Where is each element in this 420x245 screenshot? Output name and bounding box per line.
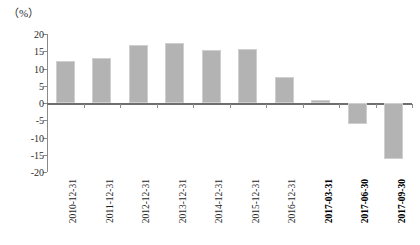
bar: [202, 50, 221, 103]
x-axis-tick: [266, 104, 267, 108]
x-axis-tick-label: 2013-12-31: [179, 179, 189, 223]
x-axis-tick: [303, 104, 304, 108]
bar: [384, 103, 403, 159]
x-axis-tick-label: 2012-12-31: [142, 179, 152, 223]
bar: [348, 103, 367, 124]
x-axis-tick-label: 2017-09-30: [398, 179, 408, 223]
x-axis-tick: [230, 104, 231, 108]
bar: [92, 58, 111, 103]
x-axis-tick-label: 2011-12-31: [106, 179, 116, 223]
x-axis-tick-label: 2017-06-30: [361, 179, 371, 223]
y-axis-tick-label: 15: [10, 46, 44, 57]
x-axis-tick: [84, 104, 85, 108]
bar: [311, 100, 330, 103]
x-axis-tick-label: 2016-12-31: [288, 179, 298, 223]
x-axis-tick: [412, 104, 413, 108]
x-axis-tick-label: 2010-12-31: [69, 179, 79, 223]
y-axis-tick-label: 0: [10, 98, 44, 109]
bar-chart: （%） 20151050-5-10-15-20 2010-12-312011-1…: [0, 0, 420, 245]
x-axis-tick-label: 2015-12-31: [252, 179, 262, 223]
plot-area: [47, 34, 412, 172]
bar: [238, 49, 257, 103]
y-axis-tick-label: 20: [10, 29, 44, 40]
y-axis-tick-label: -15: [10, 149, 44, 160]
x-axis-tick: [193, 104, 194, 108]
x-axis-tick-label: 2014-12-31: [215, 179, 225, 223]
x-axis-tick: [157, 104, 158, 108]
y-axis-tick-label: -5: [10, 115, 44, 126]
y-axis-tick-label: 5: [10, 80, 44, 91]
bar: [56, 61, 75, 103]
y-axis-tick-label: -20: [10, 167, 44, 178]
y-axis-tick-label: -10: [10, 132, 44, 143]
bar: [275, 77, 294, 103]
bar: [165, 43, 184, 103]
x-axis-labels: 2010-12-312011-12-312012-12-312013-12-31…: [47, 179, 412, 245]
bar: [129, 45, 148, 103]
x-axis-tick: [120, 104, 121, 108]
y-axis-unit-label: （%）: [8, 4, 39, 20]
x-axis-tick: [339, 104, 340, 108]
y-axis-tick-label: 10: [10, 63, 44, 74]
x-axis-tick: [376, 104, 377, 108]
x-axis-tick-label: 2017-03-31: [325, 179, 335, 223]
